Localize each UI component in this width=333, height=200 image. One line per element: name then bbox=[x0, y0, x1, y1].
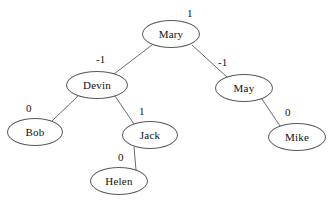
tree-node-label-mike: Mike bbox=[285, 132, 309, 143]
tree-node-label-jack: Jack bbox=[140, 130, 160, 141]
edge-jack-helen bbox=[134, 147, 136, 170]
tree-node-jack[interactable]: Jack bbox=[122, 121, 178, 149]
edge-devin-jack bbox=[115, 96, 134, 124]
tree-node-may[interactable]: May bbox=[215, 74, 273, 102]
edge-may-mike bbox=[262, 99, 280, 126]
balance-factor-mary: 1 bbox=[187, 8, 193, 19]
tree-node-devin[interactable]: Devin bbox=[66, 71, 128, 99]
balance-factor-helen: 0 bbox=[118, 152, 124, 163]
edge-devin-bob bbox=[52, 96, 78, 121]
balance-factor-bob: 0 bbox=[26, 103, 32, 114]
tree-node-bob[interactable]: Bob bbox=[7, 118, 63, 146]
edge-mary-devin bbox=[114, 45, 152, 74]
tree-node-helen[interactable]: Helen bbox=[90, 167, 148, 195]
tree-node-label-may: May bbox=[234, 83, 255, 94]
tree-node-mary[interactable]: Mary bbox=[142, 20, 200, 48]
tree-node-label-bob: Bob bbox=[26, 127, 45, 138]
tree-node-label-mary: Mary bbox=[159, 29, 184, 40]
avl-tree-diagram: MaryDevinMayBobJackMikeHelen 1-1-10100 bbox=[0, 0, 333, 200]
tree-node-mike[interactable]: Mike bbox=[268, 123, 326, 151]
balance-factor-mike: 0 bbox=[285, 107, 291, 118]
tree-node-label-helen: Helen bbox=[105, 176, 132, 187]
balance-factor-devin: -1 bbox=[96, 54, 105, 65]
balance-factor-jack: 1 bbox=[139, 106, 145, 117]
balance-factor-may: -1 bbox=[218, 57, 227, 68]
tree-node-label-devin: Devin bbox=[83, 80, 111, 91]
